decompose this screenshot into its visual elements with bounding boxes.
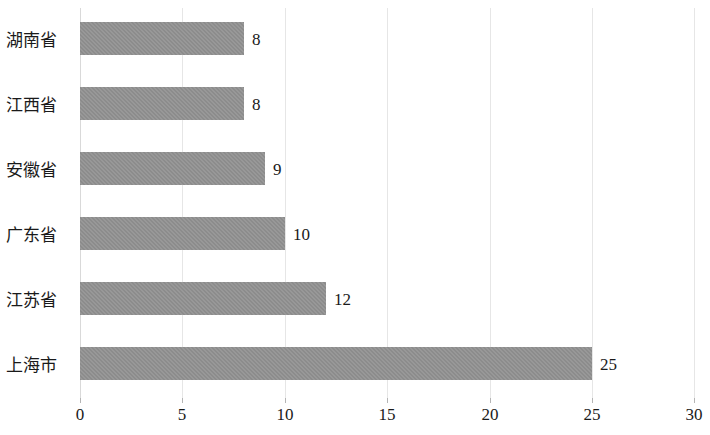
bar-value-jiangsu: 12 xyxy=(334,290,351,307)
tick-mark-20 xyxy=(490,398,491,403)
bar-value-hunan: 8 xyxy=(252,30,261,47)
category-label-hunan: 湖南省 xyxy=(6,22,74,55)
gridline-20 xyxy=(490,8,491,398)
bar-shanghai[interactable] xyxy=(80,347,592,380)
gridline-0 xyxy=(80,8,81,398)
x-tick-label-5: 5 xyxy=(178,406,187,423)
category-label-jiangsu: 江苏省 xyxy=(6,282,74,315)
tick-mark-15 xyxy=(387,398,388,403)
bar-value-guangdong: 10 xyxy=(293,225,310,242)
category-label-shanghai: 上海市 xyxy=(6,347,74,380)
bar-value-anhui: 9 xyxy=(273,160,282,177)
x-tick-label-30: 30 xyxy=(686,406,703,423)
x-tick-label-0: 0 xyxy=(76,406,85,423)
bar-jiangxi[interactable] xyxy=(80,87,244,120)
category-label-anhui: 安徽省 xyxy=(6,152,74,185)
x-tick-label-15: 15 xyxy=(379,406,396,423)
gridline-10 xyxy=(285,8,286,398)
bar-value-jiangxi: 8 xyxy=(252,95,261,112)
tick-mark-5 xyxy=(182,398,183,403)
bar-guangdong[interactable] xyxy=(80,217,285,250)
tick-mark-10 xyxy=(285,398,286,403)
tick-mark-0 xyxy=(80,398,81,403)
x-tick-label-20: 20 xyxy=(482,406,499,423)
x-tick-label-25: 25 xyxy=(584,406,601,423)
tick-mark-25 xyxy=(592,398,593,403)
gridline-30 xyxy=(694,8,695,398)
gridline-15 xyxy=(387,8,388,398)
x-tick-label-10: 10 xyxy=(277,406,294,423)
bar-value-shanghai: 25 xyxy=(600,355,617,372)
gridline-5 xyxy=(182,8,183,398)
category-label-guangdong: 广东省 xyxy=(6,217,74,250)
category-label-jiangxi: 江西省 xyxy=(6,87,74,120)
tick-mark-30 xyxy=(694,398,695,403)
plot-area: 8 8 9 10 12 25 xyxy=(80,8,695,398)
bar-hunan[interactable] xyxy=(80,22,244,55)
bar-jiangsu[interactable] xyxy=(80,282,326,315)
bar-chart: 湖南省 江西省 安徽省 广东省 江苏省 上海市 8 8 9 xyxy=(0,0,710,435)
gridline-25 xyxy=(592,8,593,398)
bar-anhui[interactable] xyxy=(80,152,265,185)
